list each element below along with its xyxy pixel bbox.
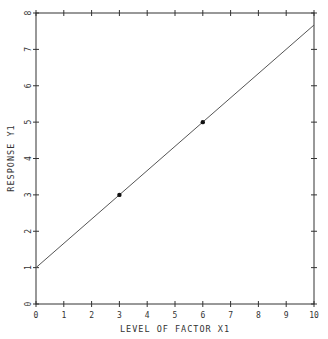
x-tick-label: 1 [61, 311, 66, 320]
x-tick-label: 6 [200, 311, 205, 320]
x-tick-label: 3 [117, 311, 122, 320]
x-tick-label: 0 [34, 311, 39, 320]
y-tick-label: 5 [24, 120, 33, 125]
x-axis-label: LEVEL OF FACTOR X1 [120, 324, 230, 334]
y-tick-label: 8 [24, 10, 33, 15]
fitted-line [36, 25, 314, 268]
axis-ticks: 012345678910012345678 [24, 10, 319, 320]
x-tick-label: 10 [309, 311, 319, 320]
y-tick-label: 0 [24, 301, 33, 306]
y-axis-label: RESPONSE Y1 [6, 124, 16, 191]
plot-frame [36, 13, 314, 304]
plot-border [36, 13, 314, 304]
data-series [36, 25, 314, 268]
x-tick-label: 4 [145, 311, 150, 320]
x-tick-label: 9 [284, 311, 289, 320]
data-point [117, 193, 121, 197]
y-tick-label: 2 [24, 229, 33, 234]
y-tick-label: 6 [24, 83, 33, 88]
chart: 012345678910012345678 LEVEL OF FACTOR X1… [0, 0, 328, 339]
x-tick-label: 7 [228, 311, 233, 320]
x-tick-label: 2 [89, 311, 94, 320]
y-tick-label: 1 [24, 265, 33, 270]
x-tick-label: 5 [173, 311, 178, 320]
data-point [201, 120, 205, 124]
x-tick-label: 8 [256, 311, 261, 320]
y-tick-label: 4 [24, 156, 33, 161]
y-tick-label: 3 [24, 192, 33, 197]
y-tick-label: 7 [24, 47, 33, 52]
